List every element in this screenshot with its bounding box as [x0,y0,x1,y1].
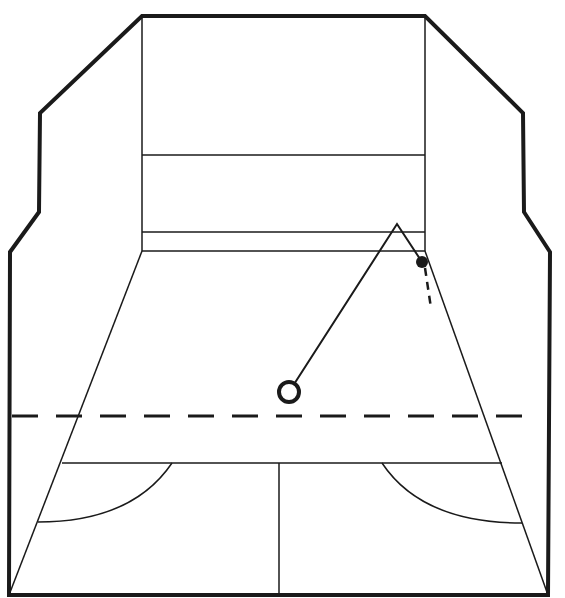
floor-right-edge [425,251,548,595]
player-marker-icon [279,382,299,402]
floor-left-edge [9,251,142,595]
ball-icon [416,256,428,268]
right-service-box-arc [382,463,522,523]
front-wall [142,16,425,251]
squash-court-diagram [0,0,565,598]
shot-continuation-dashed [425,268,431,308]
floor-lines [9,251,548,595]
shot-trajectory [289,224,422,392]
left-service-box-arc [38,463,172,522]
